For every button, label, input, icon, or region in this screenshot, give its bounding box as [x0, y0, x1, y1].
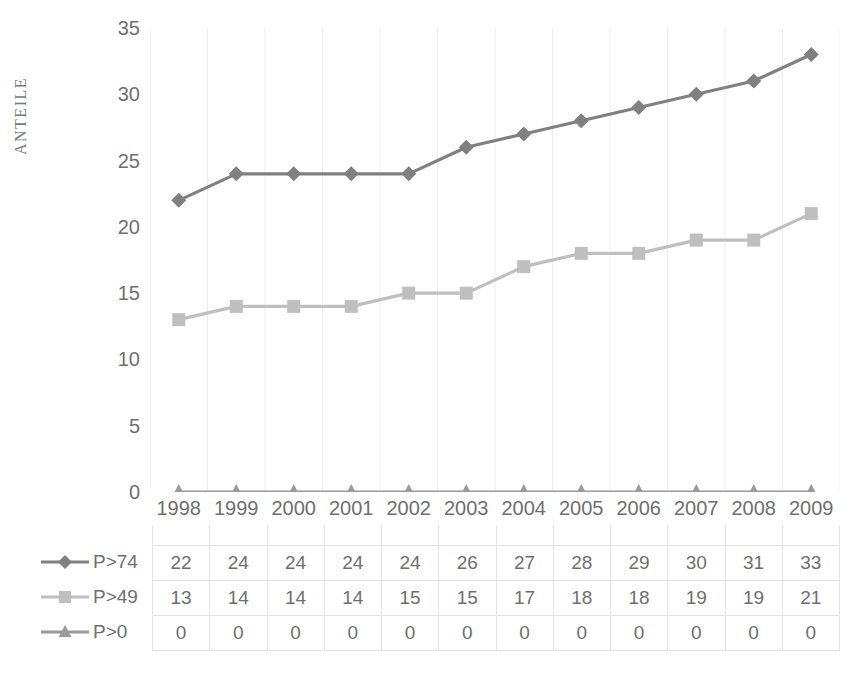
- table-cell: 24: [382, 546, 439, 581]
- table-cell: 14: [267, 581, 324, 616]
- table-cell: 27: [496, 546, 553, 581]
- table-cell: 24: [210, 546, 267, 581]
- y-axis-tick-5: 5: [80, 416, 140, 436]
- table-cell: 13: [153, 581, 210, 616]
- table-cell: 0: [153, 616, 210, 651]
- data-point-marker: [746, 74, 761, 89]
- table-cell: 14: [210, 581, 267, 616]
- table-row: P>49131414141515171818191921: [37, 581, 840, 616]
- legend-entry-P>0[interactable]: P>0: [37, 616, 153, 651]
- table-cell: 0: [782, 616, 839, 651]
- data-point-marker: [286, 166, 301, 181]
- data-point-marker: [171, 193, 186, 208]
- data-point-marker: [804, 47, 819, 62]
- y-axis-tick-25: 25: [80, 151, 140, 171]
- table-cell: 28: [553, 546, 610, 581]
- table-row: P>0000000000000: [37, 616, 840, 651]
- table-header-row: [37, 525, 840, 546]
- table-header-spacer: [153, 525, 210, 546]
- data-point-marker: [574, 113, 589, 128]
- data-table: P>74222424242426272829303133P>4913141414…: [37, 525, 840, 651]
- table-header-spacer: [782, 525, 839, 546]
- line-chart-svg: [150, 28, 840, 492]
- table-cell: 21: [782, 581, 839, 616]
- data-point-marker: [344, 166, 359, 181]
- x-axis-label-1998: 1998: [150, 494, 208, 522]
- table-header-spacer: [267, 525, 324, 546]
- table-cell: 0: [611, 616, 668, 651]
- y-axis-tick-35: 35: [80, 18, 140, 38]
- y-axis-tick-0: 0: [80, 482, 140, 502]
- data-point-marker: [345, 300, 358, 313]
- legend-label: P>49: [93, 586, 138, 608]
- data-point-marker: [689, 87, 704, 102]
- x-axis-label-2003: 2003: [438, 494, 496, 522]
- data-point-marker: [401, 166, 416, 181]
- y-axis-tick-10: 10: [80, 349, 140, 369]
- table-cell: 0: [668, 616, 725, 651]
- table-cell: 29: [611, 546, 668, 581]
- table-cell: 33: [782, 546, 839, 581]
- table-header-spacer: [439, 525, 496, 546]
- table-header-spacer: [210, 525, 267, 546]
- x-axis-label-2004: 2004: [495, 494, 553, 522]
- legend-marker-diamond-icon: [39, 553, 91, 571]
- data-point-marker: [632, 247, 645, 260]
- legend-entry-P>74[interactable]: P>74: [37, 546, 153, 581]
- table-header-spacer: [668, 525, 725, 546]
- data-point-marker: [517, 260, 530, 273]
- table-header-spacer: [382, 525, 439, 546]
- x-axis-label-2000: 2000: [265, 494, 323, 522]
- table-cell: 14: [324, 581, 381, 616]
- legend-marker-square-icon: [39, 588, 91, 606]
- y-axis-tick-labels: 35302520151050: [78, 0, 140, 500]
- x-axis-label-2002: 2002: [380, 494, 438, 522]
- table-header-spacer: [725, 525, 782, 546]
- table-cell: 0: [210, 616, 267, 651]
- table-cell: 18: [553, 581, 610, 616]
- x-axis-label-2007: 2007: [668, 494, 726, 522]
- table-cell: 17: [496, 581, 553, 616]
- table-header-spacer: [496, 525, 553, 546]
- y-axis-tick-30: 30: [80, 84, 140, 104]
- x-axis-label-2001: 2001: [323, 494, 381, 522]
- table-header-corner: [37, 525, 153, 546]
- legend-marker-triangle-icon: [39, 623, 91, 641]
- table-cell: 0: [267, 616, 324, 651]
- table-cell: 0: [382, 616, 439, 651]
- x-axis-label-2008: 2008: [725, 494, 783, 522]
- table-cell: 0: [324, 616, 381, 651]
- data-point-marker: [229, 166, 244, 181]
- table-cell: 15: [382, 581, 439, 616]
- table-cell: 15: [439, 581, 496, 616]
- table-cell: 19: [668, 581, 725, 616]
- x-axis-category-labels: 1998199920002001200220032004200520062007…: [150, 494, 840, 522]
- plot-area: [150, 28, 840, 492]
- data-point-marker: [230, 300, 243, 313]
- table-header-spacer: [611, 525, 668, 546]
- data-point-marker: [747, 234, 760, 247]
- data-point-marker: [575, 247, 588, 260]
- y-axis-title: ANTEILE: [8, 26, 34, 206]
- table-header-spacer: [324, 525, 381, 546]
- table-row: P>74222424242426272829303133: [37, 546, 840, 581]
- legend-entry-P>49[interactable]: P>49: [37, 581, 153, 616]
- legend-label: P>74: [93, 551, 138, 573]
- legend-label: P>0: [93, 621, 127, 643]
- data-point-marker: [460, 287, 473, 300]
- table-cell: 18: [611, 581, 668, 616]
- data-point-marker: [631, 100, 646, 115]
- table-header-spacer: [553, 525, 610, 546]
- table-cell: 0: [496, 616, 553, 651]
- table-cell: 0: [553, 616, 610, 651]
- data-point-marker: [172, 313, 185, 326]
- x-axis-label-2009: 2009: [783, 494, 841, 522]
- table-cell: 0: [725, 616, 782, 651]
- table-cell: 26: [439, 546, 496, 581]
- table-cell: 24: [267, 546, 324, 581]
- y-axis-tick-15: 15: [80, 283, 140, 303]
- x-axis-label-2006: 2006: [610, 494, 668, 522]
- table-cell: 30: [668, 546, 725, 581]
- table-cell: 19: [725, 581, 782, 616]
- table-cell: 0: [439, 616, 496, 651]
